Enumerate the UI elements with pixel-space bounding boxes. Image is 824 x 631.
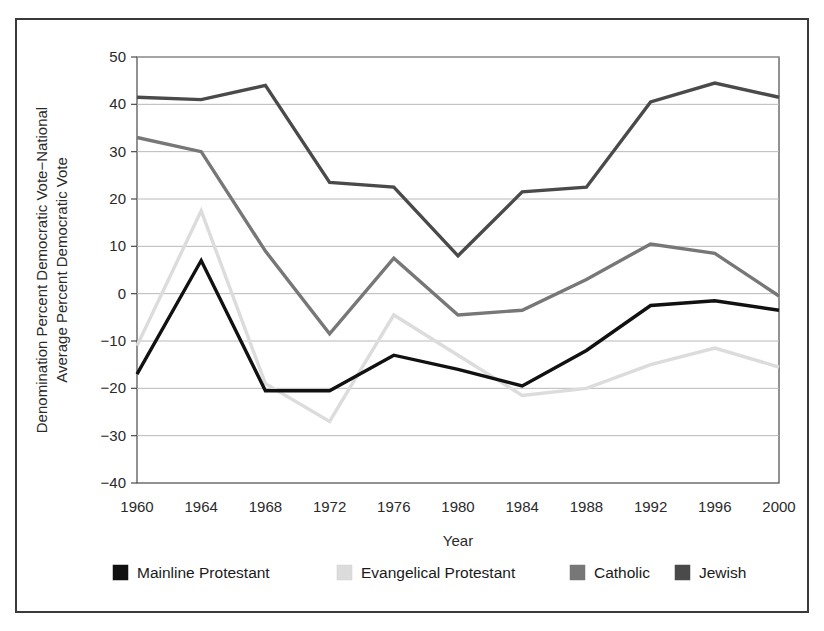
y-axis-tick-label: 10 [109, 237, 126, 254]
y-axis-tick-label: −40 [101, 474, 126, 491]
x-axis-tick-label: 1964 [185, 498, 218, 515]
x-axis-tick-label: 1972 [313, 498, 346, 515]
x-axis-tick-label: 1980 [441, 498, 474, 515]
y-axis-tick-label: 50 [109, 48, 126, 65]
legend-label: Jewish [699, 564, 746, 581]
y-axis-tick-label: −20 [101, 379, 126, 396]
y-axis-tick-label: 0 [118, 285, 126, 302]
x-axis-tick-label: 1960 [120, 498, 153, 515]
legend-label: Evangelical Protestant [361, 564, 516, 581]
legend-label: Catholic [594, 564, 650, 581]
y-axis-tick-label: −10 [101, 332, 126, 349]
x-axis-tick-label: 2000 [762, 498, 795, 515]
legend-label: Mainline Protestant [137, 564, 270, 581]
x-axis: 1960196419681972197619801984198819921996… [120, 498, 795, 515]
y-axis-title-line-2: Average Percent Democratic Vote [53, 157, 70, 383]
x-axis-tick-label: 1976 [377, 498, 410, 515]
x-axis-title: Year [443, 532, 473, 549]
x-axis-tick-label: 1988 [570, 498, 603, 515]
legend-swatch [675, 565, 690, 580]
x-axis-tick-label: 1968 [249, 498, 282, 515]
x-axis-tick-label: 1992 [634, 498, 667, 515]
plot-background [137, 57, 779, 483]
legend-swatch [570, 565, 585, 580]
x-axis-tick-label: 1984 [506, 498, 539, 515]
y-axis-tick-label: 30 [109, 143, 126, 160]
x-axis-tick-label: 1996 [698, 498, 731, 515]
figure-canvas: 50403020100−10−20−30−4019601964196819721… [0, 0, 824, 631]
plot-area [137, 57, 779, 483]
line-chart: 50403020100−10−20−30−4019601964196819721… [0, 0, 824, 631]
y-axis-tick-label: −30 [101, 427, 126, 444]
y-axis: 50403020100−10−20−30−40 [101, 48, 137, 491]
chart-legend: Mainline ProtestantEvangelical Protestan… [113, 564, 746, 581]
legend-swatch [337, 565, 352, 580]
legend-swatch [113, 565, 128, 580]
y-axis-title-line-1: Denomination Percent Democratic Vote−Nat… [33, 107, 50, 433]
y-axis-tick-label: 20 [109, 190, 126, 207]
y-axis-tick-label: 40 [109, 95, 126, 112]
